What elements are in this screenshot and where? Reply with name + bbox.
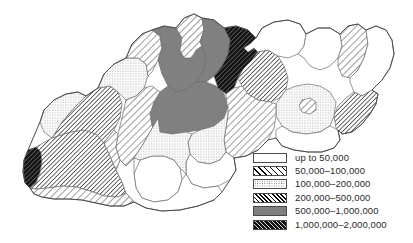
legend-swatch-up-to-50000 — [253, 153, 287, 163]
legend-item-4[interactable]: 500,000–1,000,000 — [253, 205, 408, 218]
legend-item-3[interactable]: 200,000–500,000 — [253, 191, 408, 204]
legend-label-4: 500,000–1,000,000 — [295, 206, 379, 216]
legend-item-0[interactable]: up to 50,000 — [253, 151, 408, 164]
legend-swatch-500000-1000000 — [253, 206, 287, 216]
legend-label-0: up to 50,000 — [295, 153, 349, 163]
population-legend: up to 50,000 50,000–100,000 100,000–200,… — [253, 151, 408, 231]
legend-swatch-1000000-2000000 — [253, 220, 287, 230]
legend-swatch-100000-200000 — [253, 179, 287, 189]
legend-label-5: 1,000,000–2,000,000 — [295, 220, 387, 230]
legend-item-5[interactable]: 1,000,000–2,000,000 — [253, 218, 408, 231]
legend-label-1: 50,000–100,000 — [295, 166, 365, 176]
legend-item-1[interactable]: 50,000–100,000 — [253, 164, 408, 177]
legend-swatch-50000-100000 — [253, 166, 287, 176]
region-east-central-tiny-patch — [299, 98, 316, 114]
choropleth-figure: up to 50,000 50,000–100,000 100,000–200,… — [0, 0, 413, 243]
legend-label-2: 100,000–200,000 — [295, 179, 370, 189]
legend-item-2[interactable]: 100,000–200,000 — [253, 178, 408, 191]
legend-label-3: 200,000–500,000 — [295, 193, 370, 203]
legend-swatch-200000-500000 — [253, 193, 287, 203]
